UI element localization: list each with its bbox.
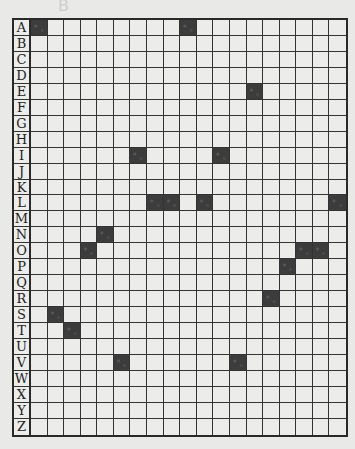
filled-cell-n-5[interactable] [97, 227, 114, 243]
grid-cell-d-9[interactable] [164, 68, 181, 84]
grid-cell-w-18[interactable] [313, 371, 330, 387]
grid-cell-s-12[interactable] [213, 307, 230, 323]
grid-cell-e-19[interactable] [329, 84, 346, 100]
grid-cell-s-9[interactable] [164, 307, 181, 323]
grid-cell-q-10[interactable] [180, 275, 197, 291]
grid-cell-r-17[interactable] [296, 291, 313, 307]
grid-cell-b-6[interactable] [114, 36, 131, 52]
grid-cell-p-12[interactable] [213, 259, 230, 275]
grid-cell-r-14[interactable] [247, 291, 264, 307]
grid-cell-c-6[interactable] [114, 52, 131, 68]
grid-cell-l-14[interactable] [247, 195, 264, 211]
grid-cell-x-8[interactable] [147, 387, 164, 403]
grid-cell-g-15[interactable] [263, 116, 280, 132]
grid-cell-h-18[interactable] [313, 132, 330, 148]
filled-cell-a-10[interactable] [180, 20, 197, 36]
grid-cell-w-19[interactable] [329, 371, 346, 387]
grid-cell-q-15[interactable] [263, 275, 280, 291]
grid-cell-i-16[interactable] [280, 148, 297, 164]
grid-cell-f-4[interactable] [81, 100, 98, 116]
grid-cell-c-4[interactable] [81, 52, 98, 68]
grid-cell-u-5[interactable] [97, 339, 114, 355]
grid-cell-w-15[interactable] [263, 371, 280, 387]
grid-cell-g-11[interactable] [197, 116, 214, 132]
grid-cell-f-16[interactable] [280, 100, 297, 116]
grid-cell-j-7[interactable] [130, 164, 147, 180]
grid-cell-v-11[interactable] [197, 355, 214, 371]
grid-cell-c-15[interactable] [263, 52, 280, 68]
grid-cell-h-7[interactable] [130, 132, 147, 148]
grid-cell-o-10[interactable] [180, 243, 197, 259]
grid-cell-g-6[interactable] [114, 116, 131, 132]
grid-cell-t-18[interactable] [313, 323, 330, 339]
grid-cell-t-9[interactable] [164, 323, 181, 339]
grid-cell-k-4[interactable] [81, 180, 98, 196]
grid-cell-w-14[interactable] [247, 371, 264, 387]
grid-cell-w-6[interactable] [114, 371, 131, 387]
grid-cell-r-1[interactable] [31, 291, 48, 307]
grid-cell-b-5[interactable] [97, 36, 114, 52]
grid-cell-b-15[interactable] [263, 36, 280, 52]
grid-cell-l-1[interactable] [31, 195, 48, 211]
grid-cell-k-1[interactable] [31, 180, 48, 196]
grid-cell-u-18[interactable] [313, 339, 330, 355]
grid-cell-g-2[interactable] [48, 116, 65, 132]
grid-cell-e-8[interactable] [147, 84, 164, 100]
grid-cell-n-4[interactable] [81, 227, 98, 243]
grid-cell-x-7[interactable] [130, 387, 147, 403]
grid-cell-s-5[interactable] [97, 307, 114, 323]
grid-cell-u-14[interactable] [247, 339, 264, 355]
grid-cell-n-18[interactable] [313, 227, 330, 243]
grid-cell-z-19[interactable] [329, 419, 346, 435]
grid-cell-a-6[interactable] [114, 20, 131, 36]
grid-cell-k-14[interactable] [247, 180, 264, 196]
grid-cell-u-1[interactable] [31, 339, 48, 355]
grid-cell-m-15[interactable] [263, 211, 280, 227]
grid-cell-g-3[interactable] [64, 116, 81, 132]
grid-cell-y-16[interactable] [280, 403, 297, 419]
grid-cell-q-1[interactable] [31, 275, 48, 291]
grid-cell-s-7[interactable] [130, 307, 147, 323]
grid-cell-v-8[interactable] [147, 355, 164, 371]
grid-cell-j-5[interactable] [97, 164, 114, 180]
grid-cell-i-8[interactable] [147, 148, 164, 164]
grid-cell-f-2[interactable] [48, 100, 65, 116]
grid-cell-a-4[interactable] [81, 20, 98, 36]
grid-cell-v-1[interactable] [31, 355, 48, 371]
grid-cell-u-16[interactable] [280, 339, 297, 355]
grid-cell-a-13[interactable] [230, 20, 247, 36]
grid-cell-i-14[interactable] [247, 148, 264, 164]
grid-cell-r-2[interactable] [48, 291, 65, 307]
grid-cell-w-1[interactable] [31, 371, 48, 387]
grid-cell-t-2[interactable] [48, 323, 65, 339]
grid-cell-e-16[interactable] [280, 84, 297, 100]
grid-cell-q-18[interactable] [313, 275, 330, 291]
grid-cell-o-11[interactable] [197, 243, 214, 259]
filled-cell-s-2[interactable] [48, 307, 65, 323]
grid-cell-z-3[interactable] [64, 419, 81, 435]
grid-cell-o-8[interactable] [147, 243, 164, 259]
filled-cell-l-9[interactable] [164, 195, 181, 211]
grid-cell-z-4[interactable] [81, 419, 98, 435]
grid-cell-s-3[interactable] [64, 307, 81, 323]
grid-cell-r-16[interactable] [280, 291, 297, 307]
grid-cell-d-11[interactable] [197, 68, 214, 84]
grid-cell-s-11[interactable] [197, 307, 214, 323]
grid-cell-r-5[interactable] [97, 291, 114, 307]
grid-cell-g-12[interactable] [213, 116, 230, 132]
grid-cell-x-10[interactable] [180, 387, 197, 403]
grid-cell-x-15[interactable] [263, 387, 280, 403]
grid-cell-h-17[interactable] [296, 132, 313, 148]
filled-cell-o-4[interactable] [81, 243, 98, 259]
filled-cell-i-12[interactable] [213, 148, 230, 164]
grid-cell-g-13[interactable] [230, 116, 247, 132]
grid-cell-g-4[interactable] [81, 116, 98, 132]
grid-cell-k-13[interactable] [230, 180, 247, 196]
grid-cell-l-5[interactable] [97, 195, 114, 211]
grid-cell-p-14[interactable] [247, 259, 264, 275]
grid-cell-v-4[interactable] [81, 355, 98, 371]
grid-cell-d-3[interactable] [64, 68, 81, 84]
grid-cell-o-16[interactable] [280, 243, 297, 259]
grid-cell-r-12[interactable] [213, 291, 230, 307]
grid-cell-h-3[interactable] [64, 132, 81, 148]
